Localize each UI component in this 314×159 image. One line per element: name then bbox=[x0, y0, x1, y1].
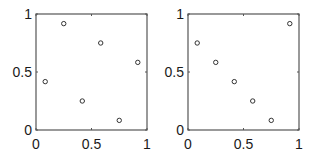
data-point-marker bbox=[117, 118, 121, 122]
data-point-marker bbox=[80, 99, 84, 103]
axes-box bbox=[188, 14, 299, 130]
x-tick-label: 0 bbox=[184, 136, 192, 152]
x-tick-label: 0 bbox=[32, 136, 40, 152]
axes-box bbox=[36, 14, 147, 130]
y-tick-label: 0 bbox=[176, 122, 184, 138]
data-point-marker bbox=[62, 21, 66, 25]
data-point-marker bbox=[269, 118, 273, 122]
data-point-marker bbox=[99, 41, 103, 45]
y-tick-label: 0.5 bbox=[165, 64, 185, 80]
y-tick-label: 1 bbox=[24, 6, 32, 22]
x-tick-label: 1 bbox=[143, 136, 151, 152]
y-tick-label: 0 bbox=[24, 122, 32, 138]
x-tick-label: 1 bbox=[295, 136, 303, 152]
x-tick-label: 0.5 bbox=[82, 136, 102, 152]
data-point-marker bbox=[214, 60, 218, 64]
data-point-marker bbox=[195, 41, 199, 45]
data-point-marker bbox=[251, 99, 255, 103]
x-tick-label: 0.5 bbox=[234, 136, 254, 152]
scatter-plot-right: 000.50.511 bbox=[165, 6, 304, 152]
chart-canvas: 000.50.511 000.50.511 bbox=[0, 0, 314, 159]
data-point-marker bbox=[288, 21, 292, 25]
data-point-marker bbox=[136, 60, 140, 64]
scatter-plot-left: 000.50.511 bbox=[13, 6, 152, 152]
data-point-marker bbox=[43, 79, 47, 83]
data-point-marker bbox=[232, 79, 236, 83]
y-tick-label: 0.5 bbox=[13, 64, 33, 80]
y-tick-label: 1 bbox=[176, 6, 184, 22]
